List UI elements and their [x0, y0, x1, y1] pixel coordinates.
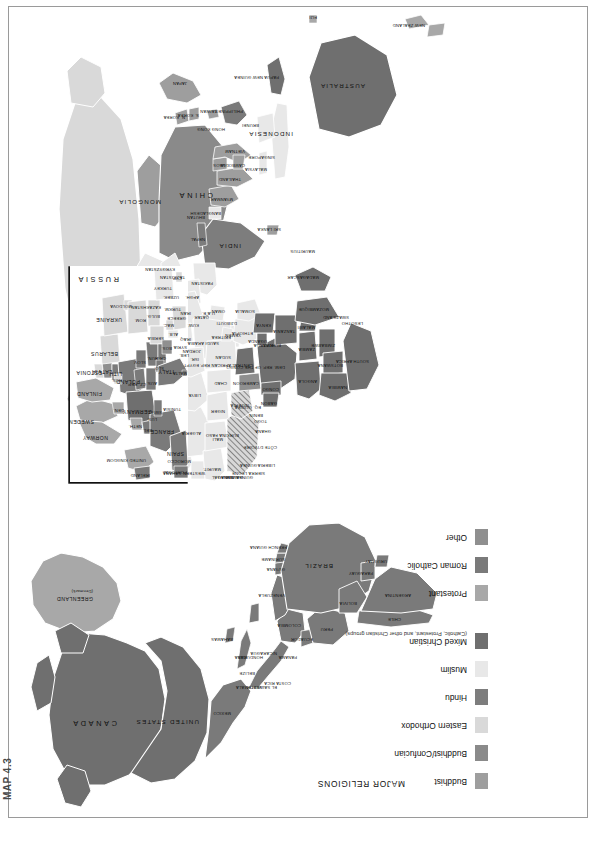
label-togo: TOGO [254, 419, 267, 423]
label-angola: ANGOLA [298, 379, 317, 383]
legend-label-other: Other [446, 533, 467, 543]
inset-label-ireland: IRELAND [130, 473, 150, 477]
label-sierra-leone: SIERRA LEONE [232, 471, 265, 475]
legend-label-mixed-christian: Mixed Christian [409, 637, 467, 647]
label-western-sahara: WESTERN SAHARA [163, 471, 205, 475]
legend-swatch-other [475, 529, 488, 545]
inset-label-serbia: SERBIA [147, 336, 164, 340]
label-paraguay: PARAGUAY [349, 571, 373, 575]
inset-label-croatia: CRO. [155, 356, 166, 360]
map-legend: MAJOR RELIGIONS Buddhist Buddhist/Confuc… [405, 369, 555, 789]
inset-label-albania: ALB. [168, 332, 178, 336]
legend-label-hindu: Hindu [445, 693, 467, 703]
legend-swatch-eastern-orthodox [475, 717, 488, 733]
map-canvas: SWEDEN NORWAY FINLAND ESTONIA LATVIA LIT… [9, 7, 588, 818]
label-new-zealand: NEW ZEALAND [393, 23, 425, 27]
label-nepal: NEPAL [191, 237, 205, 241]
label-mongolia: MONGOLIA [118, 199, 161, 206]
label-algeria: ALGERIA [181, 431, 201, 435]
island-hispaniola [249, 603, 259, 623]
label-burkina-faso: BURKINA FASO [206, 433, 239, 437]
label-suriname: SURINAME [261, 557, 285, 561]
label-dem-rep-congo: DEM. REP. OF THE CONGO [226, 365, 285, 369]
inset-label-spain: SPAIN [167, 451, 184, 456]
legend-swatch-mixed-christian [475, 633, 488, 649]
label-ghana: GHANA [255, 429, 271, 433]
label-zimbabwe: ZIMBABWE [311, 343, 335, 347]
inset-label-malta: MALTA [173, 371, 187, 375]
label-benin: BENIN [249, 413, 263, 417]
label-pakistan: PAKISTAN [191, 281, 213, 285]
inset-austria [146, 368, 156, 390]
label-indonesia: INDONESIA [248, 131, 293, 138]
label-turkmenistan: TURKM. [164, 307, 181, 311]
label-papua-new-guinea: PAPUA NEW GUINEA [234, 75, 279, 79]
label-united-states: UNITED STATES [136, 719, 200, 726]
legend-label-eastern-orthodox: Eastern Orthodox [401, 721, 467, 731]
label-liberia: LIBERIA [258, 463, 275, 467]
legend-sublabel-mixed-christian: (Catholic, Protestant, and other Christi… [345, 630, 467, 637]
label-greenland-sub: (Denmark) [71, 589, 93, 593]
inset-label-moldova: MOLDOVA [110, 304, 132, 308]
map-rotated-content: SWEDEN NORWAY FINLAND ESTONIA LATVIA LIT… [9, 7, 588, 818]
inset-label-bulgaria: BULG. [146, 314, 160, 318]
label-brunei: BRUNEI [242, 123, 259, 127]
label-brazil: BRAZIL [304, 563, 333, 570]
label-ecuador: ECUADOR [291, 637, 313, 641]
legend-swatch-protestant [475, 585, 488, 601]
label-thailand: THAILAND [219, 177, 241, 181]
label-burundi: BURUNDI [261, 343, 281, 347]
label-canada: CANADA [71, 719, 117, 727]
label-uzbekistan: UZBEK. [163, 295, 179, 299]
label-bahamas: BAHAMAS [211, 637, 233, 641]
legend-title: MAJOR RELIGIONS [317, 779, 405, 789]
inset-label-slovakia: SLOV. [133, 360, 146, 364]
label-tunisia: TUNISIA [163, 407, 181, 411]
label-niger: NIGER [211, 409, 225, 413]
label-malaysia: MALAYSIA [245, 167, 267, 171]
label-swaziland: SWAZILAND [323, 315, 349, 319]
country-niger [207, 391, 229, 421]
inset-label-sweden: SWEDEN [69, 419, 94, 424]
label-india: INDIA [218, 243, 241, 250]
inset-label-greece: GREECE [167, 316, 186, 320]
inset-label-macedonia: MAC. [163, 323, 174, 327]
label-hong-kong: HONG KONG [197, 127, 225, 131]
label-kenya: KENYA [256, 323, 271, 327]
label-japan: JAPAN [173, 81, 187, 85]
label-philippines: PHILIPPINES [215, 109, 243, 113]
legend-swatch-muslim [475, 661, 488, 677]
figure-number: MAP 4.3 [2, 758, 13, 800]
label-lesotho: LESOTHO [342, 321, 363, 325]
inset-label-bosnia: BOS. [161, 346, 172, 350]
inset-label-romania: ROM. [134, 318, 146, 322]
label-colombia: COLOMBIA [277, 623, 301, 627]
label-cameroon: CAMEROON [233, 381, 259, 385]
inset-label-ukraine: UKRAINE [96, 317, 122, 322]
label-eq-guinea: EQ. GUINEA [235, 405, 261, 409]
inset-label-russia-kaliningrad: RUS. [111, 378, 122, 382]
label-sri-lanka: SRI LANKA [257, 227, 281, 231]
inset-label-italy: ITALY [158, 369, 174, 374]
label-sudan: SUDAN [215, 355, 231, 359]
label-myanmar: MYANMAR [211, 197, 234, 201]
label-oman: OMAN [212, 309, 225, 313]
label-gabon: GABON [261, 401, 277, 405]
country-new-zealand-south [427, 23, 445, 37]
label-iran: IRAN [180, 311, 191, 315]
inset-label-united-kingdom: UNITED KINGDOM [106, 458, 146, 462]
country-central-african-rep [235, 347, 255, 375]
label-israel: ISR. [190, 357, 199, 361]
legend-swatch-roman-catholic [475, 557, 488, 573]
legend-swatch-buddhist-confucian [475, 745, 488, 761]
legend-label-roman-catholic: Roman Catholic [407, 561, 467, 571]
label-jordan: JORDAN [183, 349, 201, 353]
label-bangladesh: BANGLADESH [190, 211, 221, 215]
inset-label-lithuania: LITH. [107, 371, 122, 376]
label-saudi-arabia: SAUDI ARABIA [188, 341, 220, 345]
label-chile: CHILE [388, 617, 401, 621]
label-french-guiana: FRENCH GUIANA [250, 545, 287, 549]
inset-label-netherlands: NETH. [128, 424, 142, 428]
inset-label-czech-rep: CZ. REP. [127, 382, 146, 386]
label-tajikistan: TAJIKISTAN [160, 275, 185, 279]
